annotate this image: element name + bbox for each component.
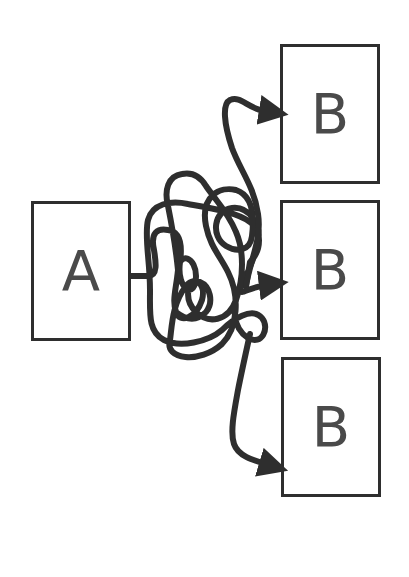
arrow-path-bottom [232, 334, 272, 466]
arrow-path-top [225, 99, 272, 286]
tangled-connector [0, 0, 409, 577]
tangle-path [131, 174, 265, 358]
